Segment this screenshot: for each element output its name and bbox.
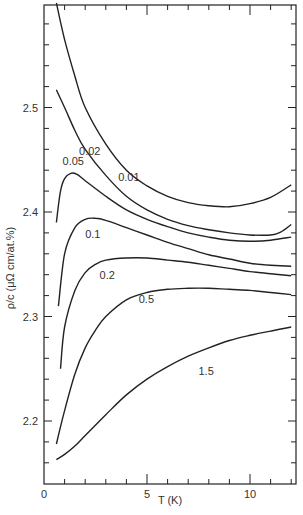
series-label-0.5: 0.5 bbox=[139, 293, 154, 305]
y-tick-label: 2.3 bbox=[23, 311, 38, 323]
series-curve-0.2 bbox=[61, 258, 292, 369]
y-axis-label: ρ/c (μΩ cm/at.%) bbox=[4, 227, 16, 310]
series-label-0.2: 0.2 bbox=[100, 269, 115, 281]
plot-border bbox=[44, 5, 296, 484]
series-labels: 0.010.020.050.10.20.51.5 bbox=[63, 145, 214, 377]
x-tick-label: 5 bbox=[144, 488, 150, 500]
series-curve-0.5 bbox=[56, 288, 291, 444]
x-axis-label: T (K) bbox=[158, 494, 182, 506]
series-curve-1.5 bbox=[56, 327, 291, 460]
y-tick-label: 2.5 bbox=[23, 102, 38, 114]
series-label-1.5: 1.5 bbox=[199, 365, 214, 377]
y-tick-label: 2.4 bbox=[23, 206, 38, 218]
axis-ticks bbox=[44, 5, 296, 484]
y-tick-label: 2.2 bbox=[23, 415, 38, 427]
series-curve-0.02 bbox=[56, 90, 291, 236]
x-tick-label: 0 bbox=[41, 488, 47, 500]
series-label-0.05: 0.05 bbox=[63, 155, 84, 167]
chart: 05102.22.32.42.5 0.010.020.050.10.20.51.… bbox=[0, 0, 303, 515]
series-curve-0.01 bbox=[56, 3, 291, 207]
series-label-0.01: 0.01 bbox=[118, 171, 139, 183]
plot-frame bbox=[44, 5, 296, 484]
x-tick-label: 10 bbox=[244, 488, 256, 500]
series-label-0.1: 0.1 bbox=[85, 228, 100, 240]
